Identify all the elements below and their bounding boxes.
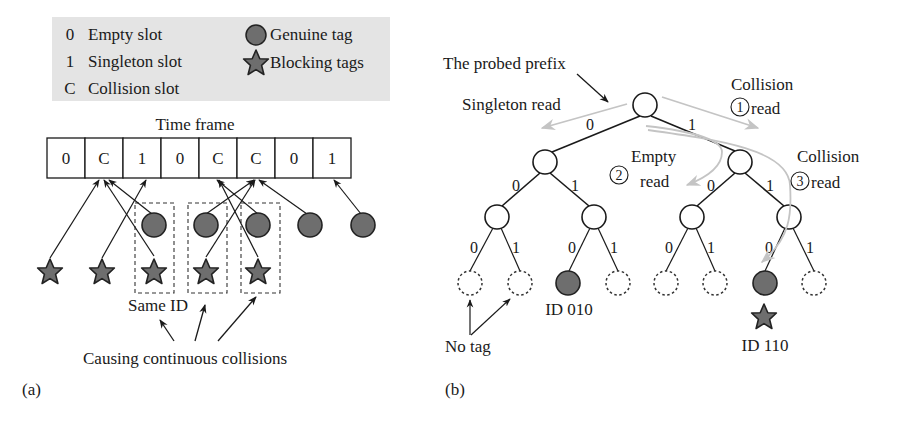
genuine-tag-icon <box>298 213 322 237</box>
id-110-label: ID 110 <box>741 336 788 355</box>
collision-read-1-title: Collision <box>731 75 794 94</box>
genuine-tag-icon <box>753 271 777 295</box>
empty-leaf-node <box>508 271 532 295</box>
edge-label-0: 0 <box>512 177 520 194</box>
legend-text-blocking: Blocking tags <box>270 53 364 72</box>
panel-b: 0 1 0 1 0 1 0 1 0 1 0 1 0 1 The probed p… <box>443 54 860 399</box>
legend-text-collision: Collision slot <box>88 79 179 98</box>
slot-value: 1 <box>328 149 337 168</box>
step-2-number: 2 <box>616 168 623 183</box>
genuine-tag-icon <box>246 213 270 237</box>
slot-value: 0 <box>62 149 71 168</box>
time-frame <box>47 138 351 178</box>
no-tag-label: No tag <box>445 337 491 356</box>
id-010-label: ID 010 <box>545 300 593 319</box>
slot-value: C <box>98 149 109 168</box>
empty-read-2-text: read <box>640 172 670 191</box>
collision-read-3-text: read <box>811 173 841 192</box>
step-1-number: 1 <box>737 100 744 115</box>
legend: 0 Empty slot 1 Singleton slot C Collisio… <box>52 17 390 101</box>
legend-text-singleton: Singleton slot <box>88 52 182 71</box>
genuine-tag-icon <box>351 213 375 237</box>
legend-symbol-singleton: 1 <box>66 52 75 71</box>
tree-node-root <box>633 93 657 117</box>
step-3-number: 3 <box>797 174 804 189</box>
edge-label-1: 1 <box>571 177 579 194</box>
same-id-label: Same ID <box>128 296 188 315</box>
empty-leaf-node <box>802 271 826 295</box>
edge-label-1: 1 <box>707 239 715 256</box>
tree-edges-lower <box>470 228 814 271</box>
edge-label-0: 0 <box>665 239 673 256</box>
edge-label-0: 0 <box>707 177 715 194</box>
panel-b-label: (b) <box>445 380 465 399</box>
legend-text-empty: Empty slot <box>88 25 162 44</box>
blocking-tag-icon <box>90 259 115 284</box>
tree-node <box>533 150 557 174</box>
edge-label-1: 1 <box>688 116 696 133</box>
edge-label-0: 0 <box>470 239 478 256</box>
blocking-tag-icon <box>38 259 63 284</box>
empty-read-2-title: Empty <box>631 147 677 166</box>
tree-node <box>582 205 606 229</box>
tree-node <box>728 150 752 174</box>
genuine-tag-icon <box>556 271 580 295</box>
tree-node <box>485 205 509 229</box>
slot-value: C <box>212 149 223 168</box>
panel-a-label: (a) <box>22 380 41 399</box>
no-tag-arrows <box>470 299 510 335</box>
edge-label-1: 1 <box>610 239 618 256</box>
slot-value: 0 <box>290 149 299 168</box>
genuine-tag-icon <box>246 25 266 45</box>
probed-prefix-arrow <box>577 74 608 102</box>
slot-value: 1 <box>138 149 147 168</box>
empty-leaf-node <box>606 271 630 295</box>
probed-prefix-label: The probed prefix <box>443 54 566 73</box>
blocking-tag-icon <box>246 259 271 284</box>
collision-read-1-text: read <box>751 99 781 118</box>
edge-label-1: 1 <box>806 239 814 256</box>
slot-value: C <box>250 149 261 168</box>
empty-leaf-node <box>703 271 727 295</box>
genuine-tag-icon <box>194 213 218 237</box>
collision-read-3-title: Collision <box>797 147 860 166</box>
edge-label-0: 0 <box>586 116 594 133</box>
slot-value: 0 <box>176 149 185 168</box>
legend-symbol-empty: 0 <box>66 25 75 44</box>
edge-label-0: 0 <box>568 239 576 256</box>
panel-a: 0 Empty slot 1 Singleton slot C Collisio… <box>22 17 390 399</box>
legend-symbol-collision: C <box>64 79 75 98</box>
singleton-read-label: Singleton read <box>462 95 561 114</box>
time-frame-title: Time frame <box>155 115 234 134</box>
empty-leaf-node <box>458 271 482 295</box>
blocking-tag-icon <box>194 259 219 284</box>
edge-label-1: 1 <box>766 177 774 194</box>
blocking-tag-icon <box>142 259 167 284</box>
edge-label-1: 1 <box>512 239 520 256</box>
empty-leaf-node <box>654 271 678 295</box>
caption-continuous-collisions: Causing continuous collisions <box>83 349 287 368</box>
genuine-tag-icon <box>142 213 166 237</box>
blocking-tag-icon <box>752 304 777 329</box>
collision-read-1-arrow <box>662 97 758 128</box>
tree-node <box>680 205 704 229</box>
legend-text-genuine: Genuine tag <box>270 25 353 44</box>
figure-canvas: 0 Empty slot 1 Singleton slot C Collisio… <box>0 0 900 425</box>
